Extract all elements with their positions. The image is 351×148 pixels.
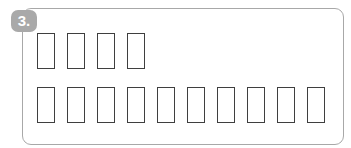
answer-row-1 [37, 33, 145, 69]
answer-box[interactable] [67, 33, 85, 69]
answer-box[interactable] [157, 87, 175, 123]
answer-box[interactable] [97, 87, 115, 123]
answer-box[interactable] [67, 87, 85, 123]
answer-row-2 [37, 87, 325, 123]
answer-box[interactable] [307, 87, 325, 123]
answer-box[interactable] [127, 87, 145, 123]
exercise-number-badge: 3. [11, 10, 37, 32]
answer-box[interactable] [37, 33, 55, 69]
answer-box[interactable] [37, 87, 55, 123]
answer-box[interactable] [247, 87, 265, 123]
answer-box[interactable] [277, 87, 295, 123]
answer-box[interactable] [217, 87, 235, 123]
exercise-card [22, 8, 344, 145]
answer-box[interactable] [97, 33, 115, 69]
answer-box[interactable] [187, 87, 205, 123]
answer-box[interactable] [127, 33, 145, 69]
